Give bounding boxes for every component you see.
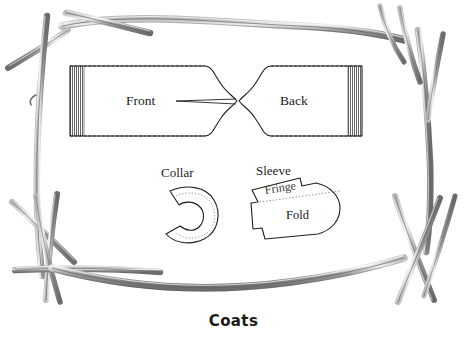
sleeve-piece — [251, 178, 340, 239]
twig-frame — [8, 6, 455, 302]
illustration-page: Front Back Collar Sleeve Fringe Fold Coa… — [0, 0, 467, 341]
twig-top-main — [62, 17, 405, 43]
back-fringe-edge — [348, 66, 362, 136]
twig-corner-top-right — [380, 6, 443, 120]
collar-piece — [166, 187, 218, 243]
coat-pattern-illustration — [0, 0, 467, 341]
front-panel — [70, 66, 237, 136]
twig-bottom-main — [52, 256, 404, 292]
front-fringe-edge — [70, 66, 84, 136]
twig-right-vertical — [416, 30, 430, 252]
back-panel — [239, 66, 362, 136]
figure-caption: Coats — [0, 312, 467, 330]
twig-top-left-diagonal — [8, 28, 69, 68]
